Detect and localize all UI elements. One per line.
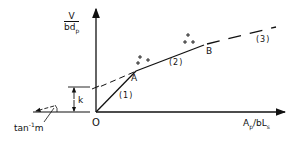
x-axis-label: Ap/bLs — [243, 119, 270, 130]
y-axis-label-denominator: bdp — [64, 22, 79, 34]
segment-2-label: (2) — [169, 59, 183, 67]
slope-label: tan-1m — [14, 122, 44, 133]
data-markers-a — [136, 55, 150, 65]
k-label: k — [78, 96, 83, 105]
segment-2-extension — [97, 72, 134, 88]
slope-leader — [44, 108, 54, 122]
slope-line — [36, 106, 54, 111]
segment-1-label: (1) — [119, 92, 133, 100]
point-a-label: A — [131, 74, 137, 83]
slope-angle-arc — [55, 105, 57, 112]
y-axis-label: V bdp — [64, 11, 79, 34]
point-b-label: B — [206, 47, 212, 56]
segment-3-label: (3) — [256, 36, 270, 44]
origin-label: O — [92, 118, 100, 128]
data-markers-b — [183, 33, 195, 44]
y-axis-label-numerator: V — [64, 11, 79, 22]
